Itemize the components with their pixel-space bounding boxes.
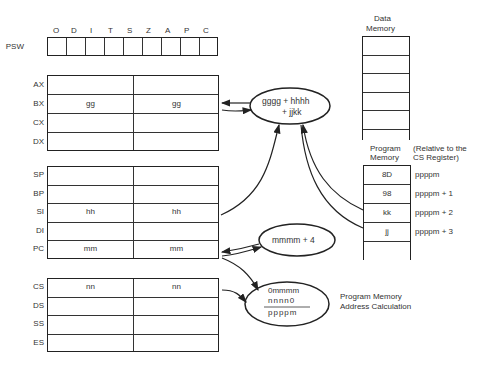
register-si-low: hh <box>134 207 219 216</box>
pc-increment-text: mmmm + 4 <box>272 235 315 245</box>
sum-line-1: gggg + hhhh <box>262 96 310 106</box>
addr-line-2: nnnn0 <box>268 296 295 305</box>
psw-flag-O: O <box>53 26 59 35</box>
psw-flag-S: S <box>127 26 132 35</box>
psw-flag-C: C <box>203 26 209 35</box>
register-pc-low: mm <box>134 244 219 253</box>
register-label-es: ES <box>20 338 44 347</box>
addr-line-3: ppppm <box>268 308 297 317</box>
program-memory-address: ppppm + 2 <box>415 208 453 217</box>
psw-flag-A: A <box>165 26 170 35</box>
register-label-dx: DX <box>20 137 44 146</box>
register-label-cs: CS <box>20 282 44 291</box>
register-pc-high: mm <box>48 244 133 253</box>
register-cs-low: nn <box>134 282 219 291</box>
program-memory-address: ppppm <box>415 170 439 179</box>
register-label-sp: SP <box>20 170 44 179</box>
psw-flag-D: D <box>71 26 77 35</box>
sum-ellipse <box>250 88 330 124</box>
program-memory-address: ppppm + 1 <box>415 189 453 198</box>
register-si-high: hh <box>48 207 133 216</box>
pointer-registers-block: hhhhmmmm <box>47 166 219 259</box>
general-registers-block: gggg <box>47 75 219 151</box>
psw-flag-Z: Z <box>146 26 151 35</box>
register-bx-high: gg <box>48 99 133 108</box>
register-label-bp: BP <box>20 189 44 198</box>
program-memory-address: ppppm + 3 <box>415 227 453 236</box>
segment-registers-block: nnnn <box>47 278 219 352</box>
register-label-di: DI <box>20 226 44 235</box>
sum-line-2: + jjkk <box>282 107 302 117</box>
register-label-cx: CX <box>20 118 44 127</box>
register-cs-high: nn <box>48 282 133 291</box>
register-label-ss: SS <box>20 319 44 328</box>
register-label-si: SI <box>20 207 44 216</box>
register-label-ax: AX <box>20 80 44 89</box>
addr-line-1: 0mmmm <box>268 286 299 295</box>
psw-flag-P: P <box>184 26 189 35</box>
register-label-pc: PC <box>20 244 44 253</box>
psw-flag-I: I <box>90 26 92 35</box>
register-label-bx: BX <box>20 99 44 108</box>
diagram-root: PSW Data Memory Program Memory (Relative… <box>0 0 499 372</box>
psw-flag-T: T <box>108 26 113 35</box>
register-bx-low: gg <box>134 99 219 108</box>
register-label-ds: DS <box>20 301 44 310</box>
